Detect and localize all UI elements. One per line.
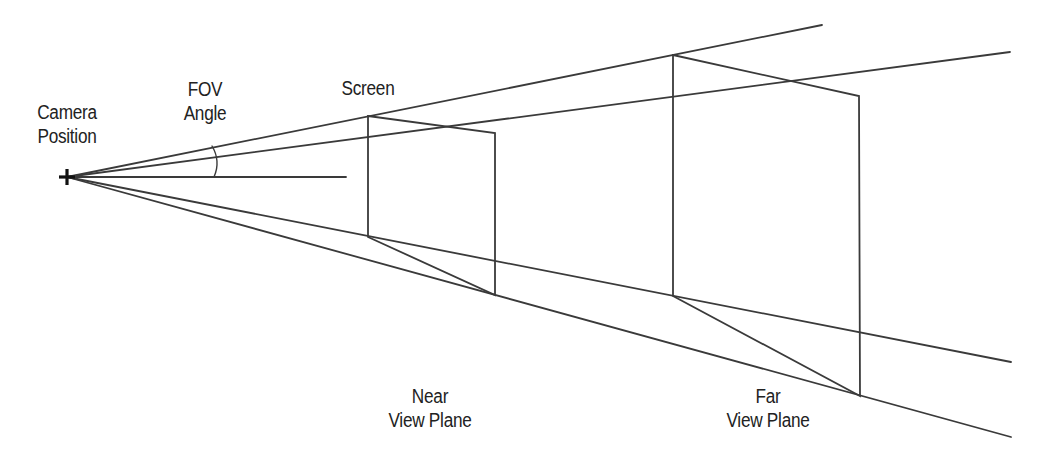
fov-angle-label: FOV Angle <box>166 77 243 125</box>
near-view-plane-label: Near View Plane <box>370 384 490 432</box>
ray-bottom-right <box>67 177 1011 437</box>
ray-bottom-left <box>67 177 1011 362</box>
far-view-plane <box>673 55 860 396</box>
far-view-plane-label: Far View Plane <box>708 384 828 432</box>
fov-angle-arc <box>212 146 217 177</box>
near-view-plane <box>368 116 495 295</box>
screen-label: Screen <box>325 76 411 100</box>
camera-position-label: Camera Position <box>20 100 115 148</box>
frustum-diagram <box>0 0 1037 459</box>
camera-position-cross-icon <box>59 169 75 185</box>
